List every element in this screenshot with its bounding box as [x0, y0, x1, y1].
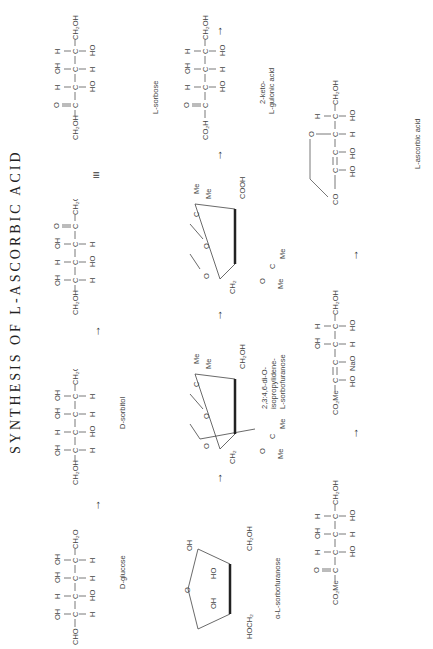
svg-text:OH: OH: [53, 390, 62, 401]
svg-text:OH: OH: [313, 528, 322, 539]
svg-text:HO: HO: [348, 320, 357, 331]
svg-text:CH₂OH: CH₂OH: [331, 290, 340, 315]
svg-text:L-sorbofuranose: L-sorbofuranose: [278, 354, 287, 409]
svg-text:H: H: [53, 594, 62, 599]
svg-text:OH: OH: [53, 572, 62, 583]
svg-text:L-ascorbic acid: L-ascorbic acid: [413, 119, 422, 169]
svg-text:OH: OH: [209, 598, 218, 609]
svg-text:C: C: [71, 277, 80, 283]
svg-text:C: C: [331, 323, 340, 329]
svg-text:C: C: [331, 341, 340, 347]
svg-text:H: H: [313, 114, 322, 119]
svg-text:H: H: [183, 49, 192, 54]
svg-text:HO: HO: [88, 426, 97, 437]
svg-text:CH₂OH: CH₂OH: [71, 529, 80, 549]
svg-text:H: H: [218, 67, 227, 72]
svg-text:C: C: [201, 66, 210, 72]
svg-text:C: C: [331, 149, 340, 155]
svg-text:O: O: [202, 443, 211, 449]
svg-text:HO: HO: [88, 256, 97, 267]
svg-text:C: C: [71, 393, 80, 399]
svg-text:D-sorbitol: D-sorbitol: [118, 397, 127, 429]
svg-text:OH: OH: [185, 540, 194, 551]
svg-text:O: O: [258, 448, 267, 454]
svg-text:C: C: [201, 48, 210, 54]
svg-text:C: C: [71, 411, 80, 417]
svg-text:CH₂: CH₂: [228, 280, 237, 294]
svg-text:HO: HO: [209, 568, 218, 579]
svg-text:HO: HO: [88, 81, 97, 92]
methyl-ester-structure: CO₂Me CCCC O HHO OHH HHO CH₂OH: [300, 469, 410, 609]
svg-text:C: C: [331, 567, 340, 573]
reaction-arrow: →: [212, 149, 224, 161]
svg-text:L-gulonic acid: L-gulonic acid: [267, 68, 276, 114]
svg-text:C: C: [201, 84, 210, 90]
svg-text:H: H: [88, 558, 97, 563]
svg-text:O: O: [202, 273, 211, 279]
svg-text:OH: OH: [53, 275, 62, 286]
svg-text:H: H: [348, 132, 357, 137]
reaction-arrow: →: [212, 309, 224, 321]
svg-text:2,3:4,6-di-O-: 2,3:4,6-di-O-: [260, 366, 269, 409]
l-sorbose-open-structure: CH₂OH CCCC OHH HHO OHH O CH₂OH: [40, 199, 170, 319]
svg-text:Me: Me: [204, 189, 213, 199]
svg-text:C: C: [71, 223, 80, 229]
svg-text:H: H: [183, 85, 192, 90]
svg-text:C: C: [71, 66, 80, 72]
svg-text:2-keto-: 2-keto-: [258, 80, 267, 104]
reaction-arrow: →: [90, 499, 102, 511]
svg-text:Me: Me: [276, 449, 285, 459]
svg-text:C: C: [331, 531, 340, 537]
svg-text:C: C: [268, 263, 277, 269]
svg-text:C: C: [71, 593, 80, 599]
svg-text:isopropylidene-: isopropylidene-: [269, 358, 278, 409]
svg-text:O: O: [182, 102, 191, 108]
svg-text:OH: OH: [313, 338, 322, 349]
svg-text:C: C: [71, 102, 80, 108]
svg-text:C: C: [268, 433, 277, 439]
svg-text:H: H: [313, 550, 322, 555]
svg-text:Me: Me: [192, 354, 201, 364]
svg-text:O: O: [202, 413, 211, 419]
d-sorbitol-structure: CH₂OH CCCC OHH HHO OHH OHH CH₂OH D-sorbi…: [40, 369, 170, 489]
d-glucose-structure: CHO CCCC OHH HHO OHH OHH CH₂OH D-glucose: [40, 529, 170, 649]
svg-text:HO: HO: [348, 376, 357, 387]
svg-text:HO: HO: [88, 45, 97, 56]
svg-text:H: H: [53, 85, 62, 90]
svg-text:CH₂OH: CH₂OH: [71, 115, 80, 140]
svg-text:C: C: [331, 549, 340, 555]
svg-text:CH₂OH: CH₂OH: [71, 290, 80, 315]
svg-text:O: O: [183, 587, 192, 593]
svg-text:H: H: [88, 394, 97, 399]
svg-text:H: H: [88, 576, 97, 581]
svg-text:CO: CO: [331, 194, 340, 205]
svg-text:CH₂OH: CH₂OH: [245, 526, 254, 551]
svg-text:HO: HO: [348, 510, 357, 521]
svg-text:OH: OH: [53, 63, 62, 74]
svg-text:Me: Me: [204, 359, 213, 369]
svg-text:H: H: [348, 342, 357, 347]
svg-text:H: H: [313, 324, 322, 329]
svg-text:CH₂OH: CH₂OH: [331, 80, 340, 105]
svg-text:C: C: [331, 359, 340, 365]
svg-text:CO₂Me: CO₂Me: [331, 580, 340, 605]
svg-text:α-L-sorbofuranose: α-L-sorbofuranose: [273, 558, 282, 619]
svg-text:O: O: [312, 567, 321, 573]
l-ascorbic-acid-structure: CO CCCC O HO HO H HHO CH₂OH L-ascorbic a…: [300, 49, 433, 209]
svg-text:H: H: [313, 514, 322, 519]
svg-text:OH: OH: [183, 63, 192, 74]
page-title: SYNTHESIS OF L-ASCORBIC ACID: [8, 149, 24, 454]
svg-text:CO₂Me: CO₂Me: [331, 390, 340, 415]
svg-text:CH₂: CH₂: [228, 450, 237, 464]
svg-text:C: C: [331, 167, 340, 173]
svg-text:C: C: [71, 241, 80, 247]
enolate-structure: CO₂Me CCCC HO NaO OHH HHO CH₂OH: [300, 279, 410, 419]
svg-text:L-sorbose: L-sorbose: [151, 81, 160, 114]
svg-text:Me: Me: [278, 419, 287, 429]
svg-text:CHO: CHO: [71, 628, 80, 645]
svg-text:CH₂OH: CH₂OH: [238, 344, 247, 369]
svg-text:OH: OH: [53, 238, 62, 249]
svg-text:CH₂OH: CH₂OH: [71, 369, 80, 385]
svg-text:H: H: [53, 49, 62, 54]
reaction-arrow: →: [348, 249, 360, 261]
